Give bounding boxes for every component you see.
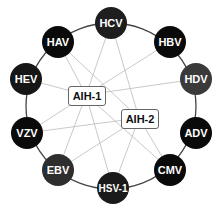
virus-node-hbv: HBV	[154, 26, 186, 58]
virus-node-hcv: HCV	[95, 7, 127, 39]
virus-node-vzv: VZV	[11, 117, 43, 149]
virus-node-hdv: HDV	[180, 63, 212, 95]
virus-autoimmune-hepatitis-network: HCVHAVHBVHEVHDVVZVADVEBVCMVHSV-1AIH-1AIH…	[0, 0, 223, 213]
disease-node-aih-2: AIH-2	[121, 109, 159, 129]
virus-node-hsv-1: HSV-1	[97, 172, 129, 204]
virus-node-hev: HEV	[10, 63, 42, 95]
virus-node-ebv: EBV	[42, 154, 74, 186]
virus-node-hav: HAV	[42, 26, 74, 58]
disease-node-aih-1: AIH-1	[68, 86, 106, 106]
virus-node-cmv: CMV	[154, 154, 186, 186]
virus-node-adv: ADV	[180, 117, 212, 149]
